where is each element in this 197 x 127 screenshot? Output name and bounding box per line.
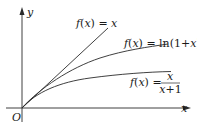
function-comparison-diagram: y x O f(x) = x f(x) = ln(1+x) f(x) = x x… — [0, 0, 197, 127]
x-axis-label: x — [181, 102, 188, 115]
y-axis-label: y — [26, 6, 34, 19]
label-rational-denominator: x+1 — [159, 83, 181, 96]
label-identity: f(x) = x — [75, 17, 118, 30]
label-rational-numerator: x — [167, 70, 174, 83]
svg-text:f(x) =: f(x) = — [129, 76, 162, 89]
label-log: f(x) = ln(1+x) — [123, 37, 197, 50]
labels: y x O f(x) = x f(x) = ln(1+x) f(x) = x x… — [12, 6, 197, 124]
origin-label: O — [12, 111, 21, 124]
label-rational: f(x) = x x+1 — [129, 70, 182, 96]
label-identity-expr: x — [111, 17, 118, 30]
curve-identity — [22, 28, 108, 108]
y-axis-arrow-icon — [20, 7, 25, 15]
